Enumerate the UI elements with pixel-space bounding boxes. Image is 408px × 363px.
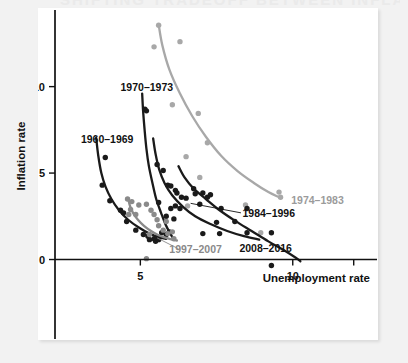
data-point	[183, 195, 188, 200]
data-point	[200, 231, 205, 236]
data-point	[144, 201, 149, 206]
series-1974-1983	[151, 23, 283, 236]
data-point	[147, 237, 152, 242]
data-point	[144, 256, 149, 261]
data-point	[154, 217, 159, 222]
data-point	[161, 227, 166, 232]
data-point	[179, 195, 184, 200]
data-point	[103, 155, 108, 160]
data-point	[196, 111, 201, 116]
series-1984-1996	[153, 138, 259, 239]
data-point	[232, 219, 237, 224]
series-label-1970-1973: 1970–1973	[121, 81, 174, 93]
data-point	[183, 154, 188, 159]
data-point	[144, 108, 149, 113]
data-point	[156, 223, 161, 228]
data-point	[154, 162, 159, 167]
data-point	[121, 210, 126, 215]
data-point	[205, 140, 210, 145]
data-point	[269, 263, 274, 268]
bleed-heading-text: SHIFTING TRADEOFF BETWEEN INFLATION AND …	[60, 0, 400, 6]
data-point	[107, 198, 112, 203]
x-axis-title: Unemployment rate	[263, 272, 370, 284]
axes-layer: 5100510Unemployment rate	[38, 10, 377, 339]
data-point	[197, 175, 202, 180]
data-point	[124, 219, 129, 224]
data-point	[133, 212, 138, 217]
data-point	[170, 102, 175, 107]
data-point	[208, 192, 213, 197]
data-point	[276, 189, 281, 194]
data-point	[168, 206, 173, 211]
data-point	[193, 191, 198, 196]
phillips-curve-scatter-plot: 5100510Unemployment rate 1960–19691970–1…	[38, 8, 378, 340]
chart-panel: 5100510Unemployment rate 1960–19691970–1…	[38, 8, 378, 340]
data-point	[126, 212, 131, 217]
data-point	[164, 219, 169, 224]
series-label-1960-1969: 1960–1969	[81, 133, 134, 145]
y-tick-label: 10	[38, 81, 45, 93]
data-point	[129, 199, 134, 204]
series-label-1974-1983: 1974–1983	[291, 194, 344, 206]
data-point	[177, 39, 182, 44]
data-point	[170, 229, 175, 234]
data-point	[174, 190, 179, 195]
data-point	[156, 23, 161, 28]
data-point	[171, 236, 176, 241]
series-label-1984-1996: 1984–1996	[242, 207, 295, 219]
x-tick-label: 5	[137, 270, 143, 282]
annotations-layer: 1960–19691970–19731974–19831984–19961997…	[81, 81, 344, 256]
data-point	[133, 227, 138, 232]
leader-line	[191, 203, 241, 213]
y-tick-label: 0	[39, 254, 45, 266]
data-point	[136, 202, 141, 207]
data-point	[164, 214, 169, 219]
y-tick-label: 5	[39, 167, 45, 179]
data-point	[214, 220, 219, 225]
data-point	[278, 195, 283, 200]
fit-curve	[159, 24, 279, 197]
data-point	[173, 203, 178, 208]
series-label-1997-2007: 1997–2007	[169, 243, 222, 255]
data-point	[147, 232, 152, 237]
data-point	[269, 230, 274, 235]
data-point	[168, 183, 173, 188]
figure-root: SHIFTING TRADEOFF BETWEEN INFLATION AND …	[0, 0, 408, 363]
data-point	[244, 230, 249, 235]
data-point	[161, 168, 166, 173]
data-point	[156, 200, 161, 205]
data-point	[171, 216, 176, 221]
data-point	[177, 206, 182, 211]
data-point	[217, 231, 222, 236]
series-label-2008-2016: 2008–2016	[239, 242, 292, 254]
data-point	[128, 207, 133, 212]
series-layer	[96, 23, 300, 269]
data-point	[151, 44, 156, 49]
data-point	[197, 201, 202, 206]
data-point	[151, 212, 156, 217]
data-point	[100, 182, 105, 187]
fit-curve	[153, 138, 259, 239]
y-axis-title: Inflation rate	[15, 101, 27, 211]
